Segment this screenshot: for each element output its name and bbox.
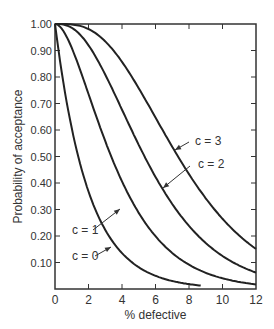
axes: 0246810120.100.200.300.400.500.600.700.8… [11,18,263,322]
y-tick-label: 0.70 [31,98,52,110]
curves [55,24,256,286]
x-tick-label: 4 [119,293,126,307]
y-tick-label: 0.30 [31,204,52,216]
x-tick-label: 12 [249,293,263,307]
x-axis-label: % defective [124,308,186,322]
y-axis-label: Probability of acceptance [11,89,25,223]
curve-label-c1: c = 1 [72,223,99,237]
y-tick-label: 0.20 [31,230,52,242]
y-tick-label: 0.10 [31,257,52,269]
x-tick-label: 6 [152,293,159,307]
oc-curve-chart: 0246810120.100.200.300.400.500.600.700.8… [0,0,274,329]
curve-label-c0: c = 0 [72,249,99,263]
curve-label-c3: c = 3 [195,134,222,148]
y-tick-label: 0.60 [31,124,52,136]
curve-c3 [55,24,256,249]
curve-c1 [55,24,256,284]
y-tick-label: 0.80 [31,71,52,83]
x-tick-label: 2 [85,293,92,307]
x-tick-label: 8 [186,293,193,307]
curve-label-c2: c = 2 [198,157,225,171]
y-tick-label: 0.50 [31,151,52,163]
y-tick-label: 0.40 [31,177,52,189]
y-tick-label: 1.00 [31,18,52,30]
labels: c = 3c = 2c = 1c = 0 [72,134,225,263]
y-tick-label: 0.90 [31,45,52,57]
x-tick-label: 10 [216,293,230,307]
x-tick-label: 0 [52,293,59,307]
arrowhead-icon [114,209,120,215]
